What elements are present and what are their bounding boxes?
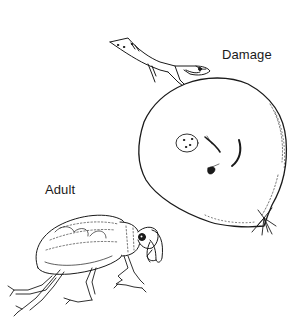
weevil-icon — [8, 215, 163, 316]
twig-icon — [110, 38, 210, 86]
fruit-icon — [139, 78, 286, 235]
label-adult: Adult — [45, 182, 75, 197]
label-damage: Damage — [222, 47, 272, 62]
illustration-canvas: Damage Adult — [0, 0, 305, 330]
